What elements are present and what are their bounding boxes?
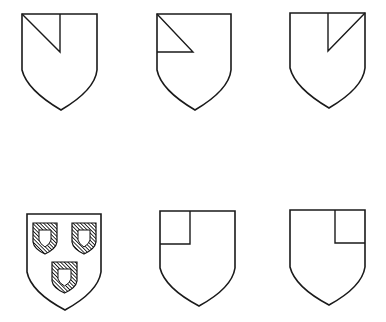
- escutcheon-dexter: [33, 223, 57, 254]
- escutcheon-base: [52, 262, 77, 293]
- shield-canton-sinister: [290, 210, 365, 305]
- shield-three-escutcheons: [27, 214, 101, 310]
- escutcheon-sinister: [72, 223, 96, 254]
- shield-gyron-sinister: [290, 13, 365, 108]
- shield-canton-dexter: [160, 211, 235, 306]
- heraldry-diagram: [0, 0, 386, 322]
- shield-gyron-dexter-horizontal: [157, 14, 231, 110]
- shield-gyron-dexter-vertical: [22, 14, 97, 110]
